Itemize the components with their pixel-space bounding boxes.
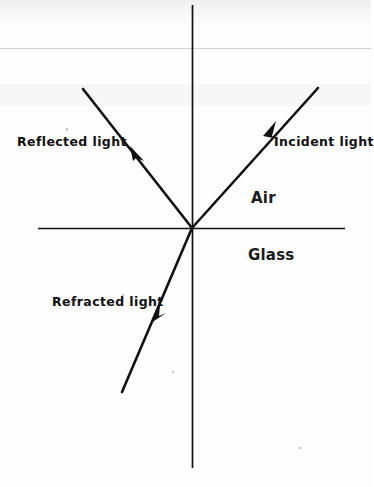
air-medium-label: Air [251,191,276,206]
refracted-ray [122,228,192,392]
incident-ray [192,88,318,228]
refracted-light-label: Refracted light [52,296,164,309]
glass-medium-label: Glass [248,248,294,263]
reflected-light-label: Reflected light [17,136,127,149]
incident-light-label: Incident light [274,136,374,149]
